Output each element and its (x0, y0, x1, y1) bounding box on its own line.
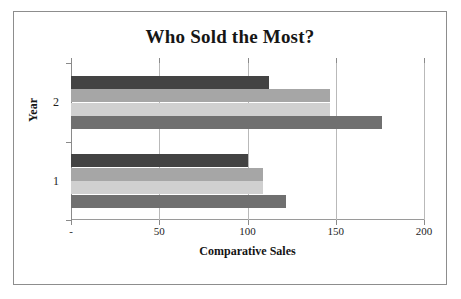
x-tick-mark-- (71, 58, 72, 63)
x-tick-label-100: 100 (239, 225, 256, 237)
y-axis-boundary-tick-0 (66, 142, 71, 143)
y-axis-boundary-tick-1 (66, 220, 71, 221)
x-tick-label-200: 200 (416, 225, 433, 237)
x-tick-label--: - (69, 225, 73, 237)
y-tick-mark-2 (66, 63, 71, 64)
y-axis-title: Year (26, 98, 41, 122)
y-tick-label-1: 1 (49, 173, 63, 188)
bar-year1-series-4 (71, 195, 286, 208)
x-tick-mark-50 (159, 58, 160, 63)
bar-year2-series-3 (71, 103, 330, 116)
y-tick-label-2: 2 (49, 95, 63, 110)
gridline-200 (424, 63, 425, 220)
x-tick-label-50: 50 (154, 225, 165, 237)
x-axis-title: Comparative Sales (71, 244, 424, 259)
bar-year1-series-3 (71, 181, 263, 194)
x-tick-mark-150 (336, 58, 337, 63)
bar-year2-series-1 (71, 76, 269, 89)
chart-frame: Who Sold the Most? -5010015020021 Compar… (13, 11, 447, 285)
x-tick-label-150: 150 (328, 225, 345, 237)
bar-year2-series-4 (71, 116, 382, 129)
bar-year1-series-2 (71, 168, 263, 181)
gridline-150 (336, 63, 337, 220)
x-tick-mark-100 (248, 58, 249, 63)
chart-title: Who Sold the Most? (14, 26, 446, 48)
bar-year1-series-1 (71, 154, 248, 167)
bar-year2-series-2 (71, 89, 330, 102)
plot-area: -5010015020021 (71, 63, 424, 220)
x-tick-mark-200 (424, 58, 425, 63)
